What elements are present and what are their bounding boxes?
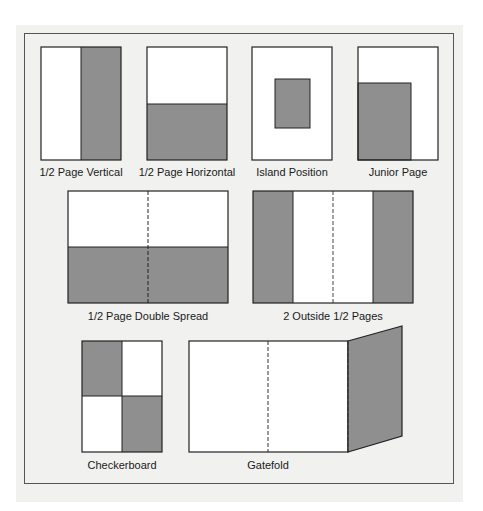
ad-area (147, 104, 227, 160)
ad-area-left (253, 191, 293, 303)
label-half-page-vertical: 1/2 Page Vertical (39, 166, 122, 178)
two-outside-half-pages-diagram (253, 191, 413, 303)
page-layouts-svg (0, 0, 483, 511)
label-checkerboard: Checkerboard (87, 459, 156, 471)
label-half-page-horizontal: 1/2 Page Horizontal (139, 166, 236, 178)
label-two-outside-half-pages: 2 Outside 1/2 Pages (283, 310, 383, 322)
junior-page-diagram (358, 47, 438, 160)
ad-area-top-left (82, 341, 122, 396)
label-island-position: Island Position (256, 166, 328, 178)
ad-area (81, 47, 121, 160)
ad-area-right (373, 191, 413, 303)
half-page-double-spread-diagram (68, 191, 228, 303)
half-page-vertical-diagram (41, 47, 121, 160)
half-page-horizontal-diagram (147, 47, 227, 160)
gatefold-flap (348, 326, 402, 452)
ad-area (275, 79, 310, 128)
label-junior-page: Junior Page (369, 166, 428, 178)
island-position-diagram (252, 47, 332, 160)
ad-area (358, 83, 411, 160)
gatefold-diagram (189, 326, 402, 452)
label-gatefold: Gatefold (247, 459, 289, 471)
checkerboard-diagram (82, 341, 162, 452)
label-half-page-double-spread: 1/2 Page Double Spread (88, 310, 208, 322)
ad-area-bottom-right (122, 396, 162, 452)
